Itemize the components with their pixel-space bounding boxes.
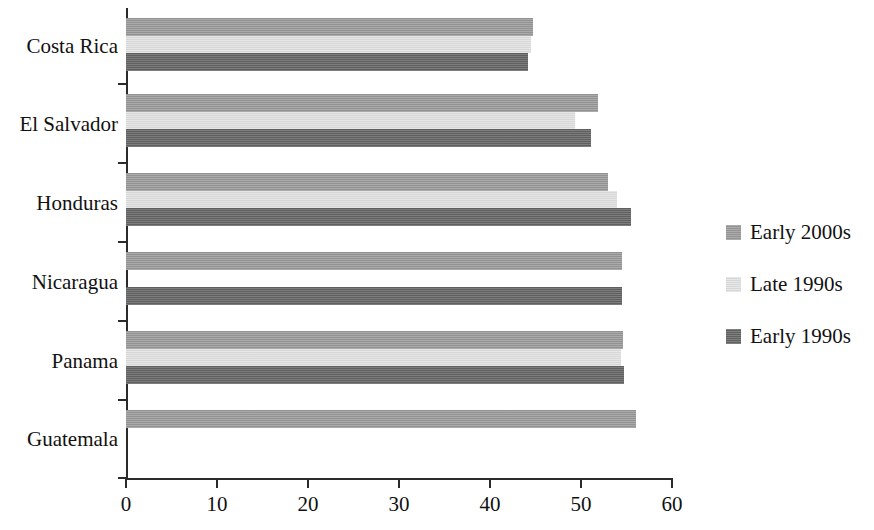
legend-swatch-icon (726, 225, 741, 240)
bar (126, 94, 598, 112)
x-axis-tick (216, 479, 218, 488)
x-axis-tick (307, 479, 309, 488)
legend-swatch-icon (726, 329, 741, 344)
bar (126, 191, 617, 209)
bar (126, 331, 623, 349)
bar (126, 366, 624, 384)
legend-item-label: Early 2000s (750, 220, 851, 244)
bar (126, 36, 531, 54)
x-axis-tick-label: 30 (369, 492, 429, 516)
x-axis-tick (125, 479, 127, 488)
x-axis-tick-label: 20 (278, 492, 338, 516)
x-axis-tick-label: 60 (642, 492, 702, 516)
bar (126, 349, 621, 367)
y-axis-category-label: Honduras (0, 191, 118, 215)
y-axis-category-label: Panama (0, 349, 118, 373)
bar (126, 173, 608, 191)
bar (126, 287, 622, 305)
legend-swatch-icon (726, 277, 741, 292)
x-axis-tick-label: 40 (460, 492, 520, 516)
y-axis-category-label: El Salvador (0, 112, 118, 136)
x-axis-tick-label: 0 (96, 492, 156, 516)
y-axis-category-label: Guatemala (0, 427, 118, 451)
bar (126, 208, 631, 226)
bar (126, 252, 622, 270)
x-axis-tick-label: 10 (187, 492, 247, 516)
bar (126, 112, 575, 130)
legend-item: Early 1990s (726, 310, 874, 362)
x-axis-tick (671, 479, 673, 488)
bar (126, 18, 533, 36)
bar (126, 410, 636, 428)
y-axis-category-label: Costa Rica (0, 34, 118, 58)
x-axis-tick (489, 479, 491, 488)
y-axis-category-label: Nicaragua (0, 270, 118, 294)
legend-item-label: Late 1990s (750, 272, 843, 296)
x-axis-tick (398, 479, 400, 488)
bar (126, 53, 528, 71)
x-axis-tick-label: 50 (551, 492, 611, 516)
legend-item-label: Early 1990s (750, 324, 851, 348)
x-axis-tick (580, 479, 582, 488)
legend-item: Early 2000s (726, 206, 874, 258)
chart-legend: Early 2000sLate 1990sEarly 1990s (726, 206, 874, 362)
legend-item: Late 1990s (726, 258, 874, 310)
plot-area (126, 8, 672, 478)
bar-chart: Costa RicaEl SalvadorHondurasNicaraguaPa… (0, 0, 874, 530)
bar (126, 129, 591, 147)
